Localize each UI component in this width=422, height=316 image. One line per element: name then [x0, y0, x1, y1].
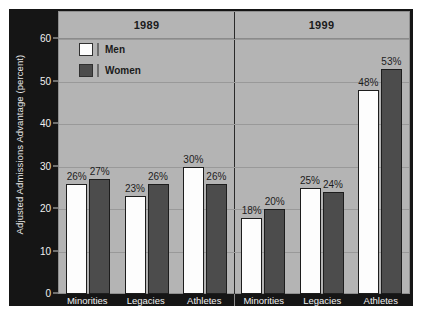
bar-value-label: 26% [67, 171, 87, 182]
x-axis-label-legacies: Legacies [117, 294, 176, 306]
y-tick-label: 10 [40, 245, 51, 256]
legend-label-men: Men [105, 44, 125, 55]
bar-value-label: 48% [358, 77, 378, 88]
bar-value-label: 26% [206, 171, 226, 182]
y-tick-label: 0 [45, 288, 51, 299]
bar-1989-athletes-men [183, 167, 204, 295]
legend: Men Women [79, 40, 175, 82]
bar-1999-legacies-men [300, 188, 321, 294]
bar-value-label: 30% [183, 154, 203, 165]
bar-value-label: 23% [125, 183, 145, 194]
bar-value-label: 25% [300, 175, 320, 186]
x-axis-label-athletes: Athletes [175, 294, 234, 306]
legend-divider-icon [97, 43, 99, 56]
legend-label-women: Women [105, 65, 141, 76]
bar-value-label: 26% [148, 171, 168, 182]
y-axis-title-band: Adjusted Admissions Advantage (percent) [9, 9, 28, 306]
panel-header-1999: 1999 [234, 12, 409, 38]
bar-value-label: 53% [381, 56, 401, 67]
bar-1989-legacies-men [125, 196, 146, 294]
bar-1989-minorities-men [66, 184, 87, 295]
legend-swatch-women-icon [79, 64, 93, 77]
x-axis-labels: MinoritiesLegaciesAthletesMinoritiesLega… [58, 294, 410, 306]
y-tick-label: 60 [40, 33, 51, 44]
bar-value-label: 27% [90, 166, 110, 177]
gridline [59, 167, 409, 168]
legend-item-men: Men [79, 40, 175, 58]
bar-1999-minorities-men [241, 218, 262, 295]
panel-header-1989: 1989 [59, 12, 234, 38]
y-tick-label: 50 [40, 75, 51, 86]
gridline [59, 209, 409, 210]
bar-value-label: 20% [265, 196, 285, 207]
x-axis-panel-1989: MinoritiesLegaciesAthletes [58, 294, 234, 306]
legend-divider-icon [97, 64, 99, 77]
y-tick-label: 30 [40, 160, 51, 171]
bar-1989-athletes-women [206, 184, 227, 295]
x-axis-label-minorities: Minorities [235, 294, 294, 306]
bar-1989-minorities-women [89, 179, 110, 294]
bar-1999-minorities-women [264, 209, 285, 294]
y-axis-tick-labels: 0102030405060 [28, 9, 58, 306]
legend-item-women: Women [79, 61, 175, 79]
bar-1999-legacies-women [323, 192, 344, 294]
gridline [59, 252, 409, 253]
x-axis-panel-1999: MinoritiesLegaciesAthletes [234, 294, 411, 306]
bar-value-label: 18% [242, 205, 262, 216]
y-tick-label: 40 [40, 118, 51, 129]
legend-swatch-men-icon [79, 43, 93, 56]
x-axis-label-athletes: Athletes [352, 294, 411, 306]
bar-value-label: 24% [323, 179, 343, 190]
gridline [59, 124, 409, 125]
y-tick-label: 20 [40, 203, 51, 214]
bar-1989-legacies-women [148, 184, 169, 295]
bar-1999-athletes-men [358, 90, 379, 294]
x-axis-label-minorities: Minorities [58, 294, 117, 306]
bar-1999-athletes-women [381, 69, 402, 294]
y-axis-title: Adjusted Admissions Advantage (percent) [14, 25, 25, 265]
x-axis-label-legacies: Legacies [293, 294, 352, 306]
chart-figure: Adjusted Admissions Advantage (percent) … [9, 9, 413, 306]
plot-area: 1989 1999 26%27%23%26%30%26%18%20%25%24%… [58, 11, 410, 294]
